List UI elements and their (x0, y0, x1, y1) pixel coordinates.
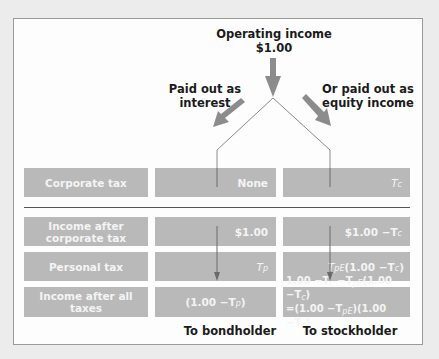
equity-arrow-icon (302, 94, 331, 126)
flow-lines (0, 0, 439, 359)
stock-flow-arrowhead-icon (327, 272, 333, 281)
down-arrow-icon (265, 58, 281, 97)
interest-arrow-icon (213, 98, 245, 127)
bond-flow-arrowhead-icon (214, 272, 220, 281)
